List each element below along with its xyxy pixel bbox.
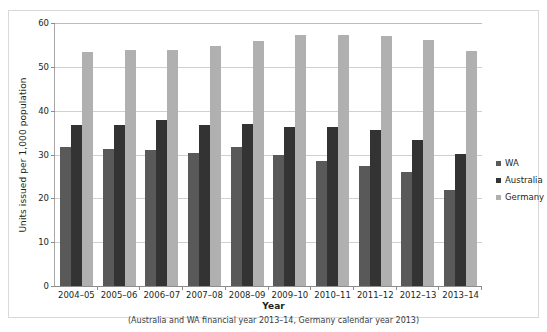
y-axis-title-label: Units issued per 1,000 population	[18, 77, 28, 232]
bar-au-2009-10[interactable]	[284, 127, 295, 286]
legend-item-wa[interactable]: WA	[496, 158, 544, 168]
x-axis-note: (Australia and WA financial year 2013–14…	[9, 316, 538, 325]
bar-de-2004-05[interactable]	[82, 52, 93, 286]
legend-swatch-icon-wa	[496, 161, 501, 166]
bar-group-2012-13	[397, 23, 440, 286]
y-tick-label-60: 60	[38, 18, 49, 28]
bar-au-2006-07[interactable]	[156, 120, 167, 286]
bar-wa-2010-11[interactable]	[316, 161, 327, 286]
bar-wa-2007-08[interactable]	[188, 153, 199, 286]
x-tick-label-2008-09: 2008–09	[226, 290, 269, 300]
bar-group-2008-09	[226, 23, 269, 286]
bar-de-2012-13[interactable]	[423, 40, 434, 286]
legend-item-de[interactable]: Germany	[496, 192, 544, 202]
y-tick-label-40: 40	[38, 106, 49, 116]
bar-group-2004-05	[55, 23, 98, 286]
y-axis-title: Units issued per 1,000 population	[15, 23, 31, 286]
bar-au-2008-09[interactable]	[242, 124, 253, 286]
x-tick-label-2007-08: 2007–08	[183, 290, 226, 300]
bar-au-2012-13[interactable]	[412, 140, 423, 286]
y-tick-label-20: 20	[38, 193, 49, 203]
y-tick-label-10: 10	[38, 237, 49, 247]
bar-au-2004-05[interactable]	[71, 125, 82, 286]
y-tick-label-30: 30	[38, 150, 49, 160]
bar-au-2007-08[interactable]	[199, 125, 210, 286]
bar-de-2008-09[interactable]	[253, 41, 264, 286]
legend: WAAustraliaGermany	[496, 158, 544, 202]
x-axis-note-label: (Australia and WA financial year 2013–14…	[128, 316, 419, 325]
x-tick-label-2004-05: 2004–05	[55, 290, 98, 300]
bar-group-2010-11	[311, 23, 354, 286]
legend-swatch-icon-au	[496, 178, 501, 183]
bar-au-2005-06[interactable]	[114, 125, 125, 286]
bar-wa-2013-14[interactable]	[444, 190, 455, 286]
bar-group-2006-07	[140, 23, 183, 286]
bar-wa-2004-05[interactable]	[60, 147, 71, 286]
x-tick-label-2005-06: 2005–06	[98, 290, 141, 300]
plot-area: 0102030405060 2004–052005–062006–072007–…	[54, 23, 482, 298]
bar-de-2009-10[interactable]	[295, 35, 306, 286]
x-tick-label-2012-13: 2012–13	[397, 290, 440, 300]
x-tick-label-2011-12: 2011–12	[354, 290, 397, 300]
legend-label-de: Germany	[505, 192, 544, 202]
bar-de-2013-14[interactable]	[466, 51, 477, 286]
legend-item-au[interactable]: Australia	[496, 175, 544, 185]
bar-wa-2011-12[interactable]	[359, 166, 370, 286]
bar-group-2011-12	[354, 23, 397, 286]
bar-wa-2005-06[interactable]	[103, 149, 114, 286]
x-tick-label-2009-10: 2009–10	[269, 290, 312, 300]
x-tick-label-2010-11: 2010–11	[311, 290, 354, 300]
legend-swatch-icon-de	[496, 195, 501, 200]
x-tick-labels: 2004–052005–062006–072007–082008–092009–…	[55, 290, 482, 300]
bar-de-2006-07[interactable]	[167, 50, 178, 286]
bar-de-2011-12[interactable]	[381, 36, 392, 286]
y-tick-label-0: 0	[44, 281, 49, 291]
x-tick-label-2006-07: 2006–07	[140, 290, 183, 300]
chart-frame: Units issued per 1,000 population 010203…	[8, 10, 539, 318]
y-tick-mark-0	[51, 286, 55, 287]
bar-wa-2006-07[interactable]	[145, 150, 156, 286]
x-axis-title: Year	[9, 301, 538, 311]
bar-group-2013-14	[439, 23, 482, 286]
y-tick-label-50: 50	[38, 62, 49, 72]
bar-groups	[55, 23, 482, 286]
bar-de-2005-06[interactable]	[125, 50, 136, 286]
bar-de-2007-08[interactable]	[210, 46, 221, 286]
bar-au-2011-12[interactable]	[370, 130, 381, 286]
bar-au-2010-11[interactable]	[327, 127, 338, 286]
legend-label-au: Australia	[505, 175, 543, 185]
x-axis-title-label: Year	[262, 301, 284, 311]
bar-wa-2009-10[interactable]	[273, 155, 284, 287]
bar-wa-2008-09[interactable]	[231, 147, 242, 286]
bar-group-2009-10	[269, 23, 312, 286]
bar-de-2010-11[interactable]	[338, 35, 349, 286]
bar-group-2005-06	[98, 23, 141, 286]
bar-au-2013-14[interactable]	[455, 154, 466, 286]
bar-wa-2012-13[interactable]	[401, 172, 412, 286]
bar-group-2007-08	[183, 23, 226, 286]
legend-label-wa: WA	[505, 158, 519, 168]
x-tick-label-2013-14: 2013–14	[439, 290, 482, 300]
